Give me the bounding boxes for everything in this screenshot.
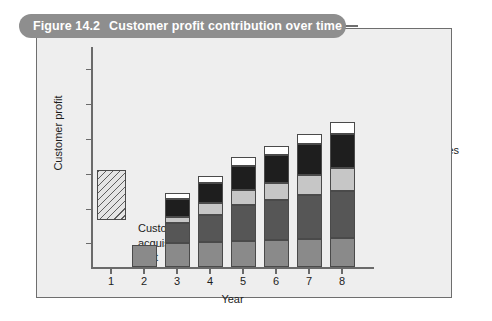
bar-segment	[297, 134, 322, 144]
bar-segment	[198, 242, 223, 267]
bar-segment	[198, 203, 223, 214]
bar-segment	[297, 239, 322, 267]
x-axis-tick	[308, 269, 309, 274]
y-axis-tick	[86, 243, 91, 244]
x-axis-tick-label: 2	[141, 275, 147, 287]
title-connector-line	[344, 25, 358, 27]
bar-segment	[297, 175, 322, 196]
bar-segment	[330, 122, 355, 133]
x-axis-tick	[176, 269, 177, 274]
x-axis-tick-label: 5	[240, 275, 246, 287]
bar-segment	[264, 155, 289, 183]
bar-segment	[198, 176, 223, 183]
figure-number: Figure 14.2	[33, 19, 100, 33]
y-axis-tick	[86, 209, 91, 210]
x-axis-tick	[143, 269, 144, 274]
bar-segment	[231, 205, 256, 241]
bar-segment	[198, 183, 223, 204]
bar-segment	[264, 240, 289, 267]
bar-segment	[231, 241, 256, 267]
bar-column	[264, 146, 289, 267]
bar-segment	[330, 238, 355, 267]
x-axis-tick-label: 8	[339, 275, 345, 287]
bar-segment	[231, 166, 256, 191]
bar-segment	[165, 199, 190, 216]
bar-column	[132, 245, 157, 267]
bar-segment	[297, 195, 322, 239]
bar-segment	[264, 183, 289, 200]
y-axis-title: Customer profit	[52, 68, 64, 198]
y-axis-tick	[86, 139, 91, 140]
x-axis-tick-label: 1	[108, 275, 114, 287]
x-axis-tick	[242, 269, 243, 274]
figure-title-bar: Figure 14.2 Customer profit contribution…	[19, 14, 346, 38]
bar-column	[330, 122, 355, 267]
bar-segment	[330, 134, 355, 168]
x-axis-tick	[341, 269, 342, 274]
x-axis-tick	[110, 269, 111, 274]
x-axis-tick	[209, 269, 210, 274]
bar-column	[198, 176, 223, 267]
bar-column	[231, 157, 256, 267]
bar-segment	[165, 243, 190, 267]
bar-segment	[231, 190, 256, 205]
bar-segment	[264, 146, 289, 155]
bar-segment	[330, 168, 355, 192]
figure-root: Figure 14.2 Customer profit contribution…	[0, 0, 492, 321]
y-axis-tick	[86, 174, 91, 175]
x-axis-tick-label: 4	[207, 275, 213, 287]
bar-segment	[165, 223, 190, 244]
bar-segment	[132, 245, 157, 267]
bar-column	[165, 193, 190, 267]
figure-title: Customer profit contribution over time	[109, 19, 342, 33]
bar-segment	[231, 157, 256, 165]
x-axis-tick	[275, 269, 276, 274]
bar-segment	[297, 144, 322, 175]
y-axis-line	[91, 47, 93, 269]
x-axis-tick-label: 6	[273, 275, 279, 287]
y-axis-tick	[86, 104, 91, 105]
x-axis-tick-label: 3	[174, 275, 180, 287]
x-axis-title: Year	[91, 293, 374, 305]
bar-column	[297, 134, 322, 267]
bar-segment	[264, 200, 289, 240]
figure-frame: Customer profit Year Customer acquisitio…	[36, 28, 452, 298]
plot-area: Customer profit Year Customer acquisitio…	[37, 29, 453, 299]
customer-acquisition-cost-bar	[97, 170, 126, 220]
bar-segment	[330, 191, 355, 238]
y-axis-tick	[86, 69, 91, 70]
bar-segment	[198, 215, 223, 243]
x-axis-line	[91, 267, 374, 269]
x-axis-tick-label: 7	[306, 275, 312, 287]
